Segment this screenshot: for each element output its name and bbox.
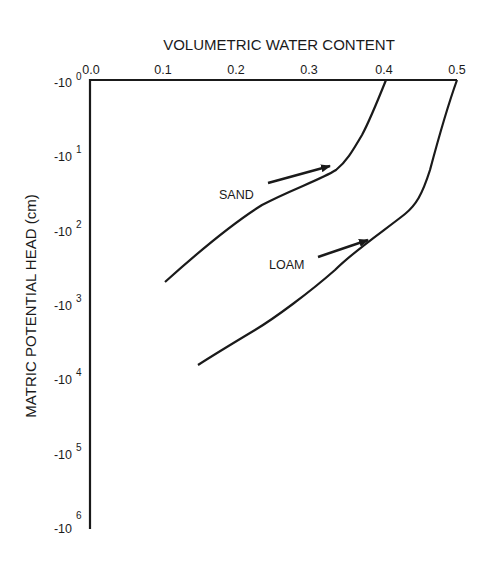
x-tick-label: 0.2 xyxy=(227,63,244,77)
svg-text:5: 5 xyxy=(76,442,82,453)
svg-text:2: 2 xyxy=(76,219,82,230)
svg-text:-10: -10 xyxy=(54,522,72,536)
y-tick-label: -10 0 xyxy=(54,71,82,90)
loam-label: LOAM xyxy=(269,258,304,272)
chart-canvas: VOLUMETRIC WATER CONTENT 0.0 0.1 0.2 0.3… xyxy=(0,0,485,565)
x-tick-label: 0.0 xyxy=(82,63,99,77)
svg-text:-10: -10 xyxy=(54,150,72,164)
svg-text:-10: -10 xyxy=(54,225,72,239)
x-tick-label: 0.3 xyxy=(300,63,317,77)
y-tick-label: -10 3 xyxy=(54,293,82,313)
x-tick-label: 0.1 xyxy=(154,63,171,77)
y-axis-label: MATRIC POTENTIAL HEAD (cm) xyxy=(22,194,39,417)
svg-text:4: 4 xyxy=(76,367,82,378)
svg-text:-10: -10 xyxy=(54,299,72,313)
chart-title: VOLUMETRIC WATER CONTENT xyxy=(163,36,395,53)
svg-text:0: 0 xyxy=(76,71,82,82)
svg-text:-10: -10 xyxy=(54,373,72,387)
sand-label: SAND xyxy=(219,188,254,202)
svg-text:-10: -10 xyxy=(54,448,72,462)
y-tick-label: -10 6 xyxy=(54,510,82,536)
y-tick-label: -10 2 xyxy=(54,219,82,239)
svg-text:-10: -10 xyxy=(54,76,72,90)
svg-text:1: 1 xyxy=(76,144,82,155)
y-tick-label: -10 5 xyxy=(54,442,82,462)
sand-arrow-icon xyxy=(268,166,330,183)
svg-text:6: 6 xyxy=(76,510,82,521)
y-tick-label: -10 4 xyxy=(54,367,82,387)
y-axis-ticks: -10 0 -10 1 -10 2 -10 3 -10 4 -10 5 -10 … xyxy=(54,71,82,536)
x-tick-label: 0.4 xyxy=(375,63,392,77)
x-axis-ticks: 0.0 0.1 0.2 0.3 0.4 0.5 xyxy=(82,63,465,77)
y-tick-label: -10 1 xyxy=(54,144,82,164)
x-tick-label: 0.5 xyxy=(448,63,465,77)
svg-text:3: 3 xyxy=(76,293,82,304)
